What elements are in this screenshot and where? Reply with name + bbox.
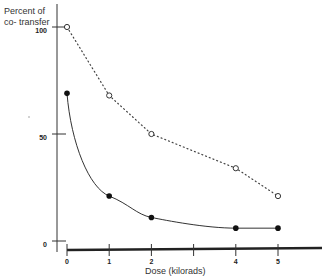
filled-circle-marker — [149, 215, 155, 221]
open-circle-marker — [149, 131, 154, 136]
y-axis-label-line1: Percent of — [4, 6, 46, 16]
chart: 05010001245Percent ofco- transferDose (k… — [0, 0, 322, 279]
filled-circle-marker — [106, 193, 112, 199]
x-tick-label: 5 — [276, 258, 280, 265]
open-circle-marker — [233, 166, 238, 171]
filled-circle-marker — [233, 225, 239, 231]
labels: 05010001245Percent ofco- transferDose (k… — [4, 6, 280, 276]
plot-area — [28, 24, 281, 231]
x-axis-line — [67, 248, 322, 250]
y-axis-label-line2: co- transfer — [4, 17, 50, 27]
open-circle-marker — [64, 24, 69, 29]
x-tick-label: 4 — [234, 258, 238, 265]
y-tick-label: 100 — [35, 27, 47, 34]
axes — [52, 4, 322, 256]
x-tick-label: 2 — [149, 258, 153, 265]
filled-circle-marker — [64, 91, 70, 97]
series-open-line — [67, 27, 278, 196]
series-filled-curve — [67, 93, 278, 228]
filled-circle-marker — [275, 225, 281, 231]
y-tick-label: 50 — [39, 134, 47, 141]
x-axis-label: Dose (kilorads) — [145, 266, 206, 276]
open-circle-marker — [275, 193, 280, 198]
x-tick-label: 0 — [65, 258, 69, 265]
y-tick-label: 0 — [43, 241, 47, 248]
stray-mark — [28, 116, 30, 118]
open-circle-marker — [107, 93, 112, 98]
x-tick-label: 1 — [107, 258, 111, 265]
